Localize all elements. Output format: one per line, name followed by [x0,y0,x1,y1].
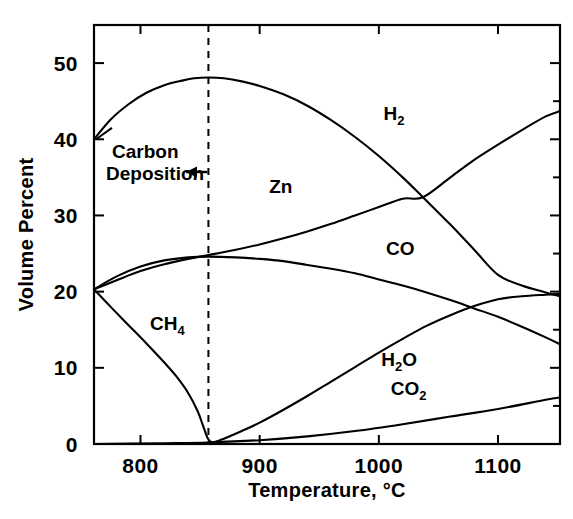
x-axis-title: Temperature, °C [248,479,406,501]
series-curve-co2 [94,398,560,444]
series-label-co: CO [386,238,415,259]
carbon-deposition-label-line1: Carbon [112,141,179,162]
series-label-text: H2 [384,103,405,128]
series-label-text: CH4 [150,313,185,338]
series-label-text: H2O [381,349,417,374]
series-label-zn: Zn [269,176,292,197]
x-tick-label: 1100 [474,454,522,477]
series-label-text: Zn [269,176,292,197]
x-tick-label: 800 [122,454,159,477]
series-label-text: CO2 [391,378,427,403]
plot-frame [94,25,560,444]
y-tick-label: 30 [54,204,78,227]
series-curve-zn [94,111,560,289]
x-tick-label: 1000 [354,454,403,477]
x-tick-label: 900 [241,454,278,477]
y-axis-title: Volume Percent [15,158,37,312]
series-label-ch4: CH4 [150,313,185,338]
y-tick-label: 0 [66,433,78,456]
y-tick-label: 40 [54,128,78,151]
series-label-text: CO [386,238,415,259]
series-label-co2: CO2 [391,378,427,403]
y-tick-label: 50 [54,52,78,75]
figure-container: 8009001000110001020304050Temperature, °C… [0,0,573,519]
y-tick-label: 10 [54,356,78,379]
series-label-h2o: H2O [381,349,417,374]
series-label-h2: H2 [384,103,405,128]
y-tick-label: 20 [54,280,78,303]
chart-canvas: 8009001000110001020304050Temperature, °C… [0,0,573,519]
